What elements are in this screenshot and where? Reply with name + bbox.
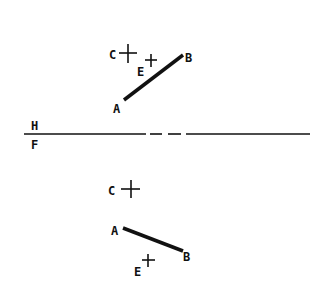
front-label-c: C xyxy=(108,184,115,198)
front-point-c-plus-icon xyxy=(121,180,140,198)
top-point-c-plus-icon xyxy=(119,44,137,63)
ground-line-label-h: H xyxy=(31,119,38,133)
ground-line-label-f: F xyxy=(31,138,38,152)
front-view: A B C E xyxy=(108,180,190,279)
front-point-e-plus-icon xyxy=(142,254,155,267)
top-label-e: E xyxy=(137,65,144,79)
top-label-b: B xyxy=(185,51,192,65)
top-label-a: A xyxy=(113,102,121,116)
projection-diagram: A B C E H F A B C E xyxy=(0,0,335,284)
front-segment-ab xyxy=(123,228,183,251)
top-point-e-plus-icon xyxy=(145,54,157,67)
front-label-e: E xyxy=(134,265,141,279)
top-label-c: C xyxy=(109,48,116,62)
top-segment-ab xyxy=(124,55,183,100)
ground-line: H F xyxy=(24,119,310,152)
front-label-b: B xyxy=(183,250,190,264)
top-view: A B C E xyxy=(109,44,192,116)
front-label-a: A xyxy=(111,224,119,238)
